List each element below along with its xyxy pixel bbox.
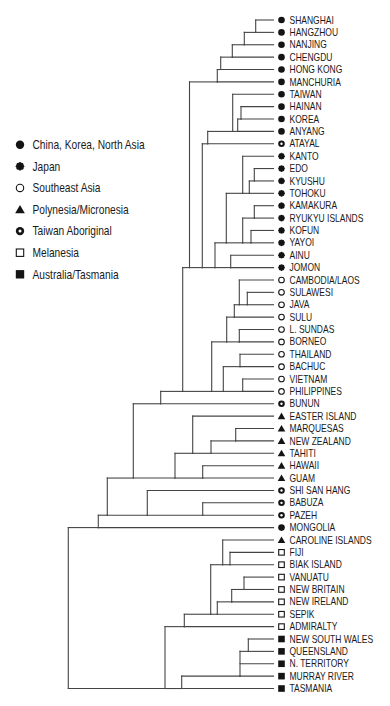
legend-label: Japan	[33, 160, 61, 173]
leaf-babuza: BABUZA	[278, 498, 324, 509]
legend-label: Taiwan Aboriginal	[33, 225, 112, 238]
hollow-square-icon	[279, 587, 285, 593]
leaf-label: SHI SAN HANG	[290, 485, 351, 496]
flower-icon	[278, 178, 285, 185]
leaf-tasmania: TASMANIA	[278, 683, 333, 694]
leaf-label: VANUATU	[290, 572, 329, 583]
leaf-label: CAROLINE ISLANDS	[290, 535, 372, 546]
dotted-circle-icon	[278, 500, 285, 507]
flower-icon	[278, 239, 285, 246]
leaf-label: NEW BRITAIN	[290, 584, 345, 595]
leaf-new-britain: NEW BRITAIN	[279, 584, 345, 595]
filled-circle-icon	[278, 17, 285, 24]
dotted-circle-icon	[16, 227, 24, 235]
dendrogram-canvas: China, Korea, North AsiaJapanSoutheast A…	[0, 0, 390, 706]
leaf-label: BACHUC	[290, 362, 326, 373]
legend-item-aus: Australia/Tasmania	[16, 268, 120, 281]
leaf-sepik: SEPIK	[279, 609, 316, 620]
filled-circle-icon	[278, 524, 285, 531]
leaf-guam: GUAM	[278, 473, 315, 484]
leaf-label: HANGZHOU	[290, 27, 339, 38]
legend-item-sea: Southeast Asia	[16, 181, 101, 194]
leaf-label: MANCHURIA	[290, 77, 342, 88]
leaf-new-zealand: NEW ZEALAND	[278, 436, 351, 447]
hollow-circle-icon	[279, 339, 285, 345]
filled-circle-icon	[278, 66, 285, 73]
leaf-label: PHILIPPINES	[290, 386, 342, 397]
filled-circle-icon	[16, 141, 24, 149]
leaf-pazeh: PAZEH	[278, 510, 317, 521]
hollow-circle-icon	[279, 364, 285, 370]
filled-triangle-icon	[278, 474, 286, 481]
legend-label: Southeast Asia	[33, 181, 102, 194]
flower-icon	[278, 252, 285, 259]
filled-triangle-icon	[278, 536, 286, 543]
leaf-label: JAVA	[290, 300, 311, 311]
leaf-label: KOFUN	[290, 225, 320, 236]
filled-square-icon	[278, 648, 285, 655]
leaf-marquesas: MARQUESAS	[278, 424, 344, 435]
leaf-anyang: ANYANG	[278, 126, 325, 137]
dotted-circle-icon	[278, 512, 285, 519]
dendrogram-leaves: SHANGHAIHANGZHOUNANJINGCHENGDUHONG KONGM…	[278, 15, 373, 694]
filled-square-icon	[278, 636, 285, 643]
flower-icon	[278, 227, 285, 234]
leaf-label: BIAK ISLAND	[290, 560, 343, 571]
leaf-label: HAWAII	[290, 461, 320, 472]
hollow-circle-icon	[279, 351, 285, 357]
leaf-tahiti: TAHITI	[278, 448, 316, 459]
leaf-shi-san-hang: SHI SAN HANG	[278, 485, 350, 496]
hollow-square-icon	[279, 550, 285, 556]
leaf-label: JOMON	[290, 263, 321, 274]
dendrogram-branches	[68, 20, 273, 689]
leaf-korea: KOREA	[278, 114, 320, 125]
flower-icon	[278, 153, 285, 160]
leaf-label: BUNUN	[290, 399, 320, 410]
leaf-label: KYUSHU	[290, 176, 325, 187]
leaf-label: SULAWESI	[290, 287, 334, 298]
leaf-sulu: SULU	[279, 312, 312, 323]
hollow-circle-icon	[279, 277, 285, 283]
leaf-label: MONGOLIA	[290, 523, 336, 534]
leaf-label: AINU	[290, 250, 310, 261]
leaf-jomon: JOMON	[278, 263, 320, 274]
leaf-label: NEW SOUTH WALES	[290, 634, 374, 645]
leaf-label: TOHOKU	[290, 188, 326, 199]
filled-circle-icon	[278, 128, 285, 135]
legend-item-taiwan: Taiwan Aboriginal	[16, 225, 112, 238]
leaf-label: EDO	[290, 164, 308, 175]
leaf-admiralty: ADMIRALTY	[279, 622, 338, 633]
leaf-hainan: HAINAN	[278, 102, 321, 113]
filled-circle-icon	[278, 41, 285, 48]
leaf-label: HAINAN	[290, 102, 322, 113]
legend-item-japan: Japan	[16, 160, 61, 173]
filled-triangle-icon	[15, 205, 25, 213]
leaf-label: PAZEH	[290, 510, 318, 521]
leaf-bunun: BUNUN	[278, 399, 319, 410]
leaf-yayoi: YAYOI	[278, 238, 314, 249]
filled-triangle-icon	[278, 462, 286, 469]
leaf-label: CHENGDU	[290, 52, 333, 63]
leaf-label: ATAYAL	[290, 139, 320, 150]
filled-square-icon	[278, 673, 285, 680]
hollow-square-icon	[279, 562, 285, 568]
hollow-circle-icon	[279, 327, 285, 333]
flower-icon	[278, 165, 285, 172]
filled-square-icon	[16, 270, 24, 278]
hollow-square-icon	[279, 624, 285, 630]
leaf-label: TASMANIA	[290, 683, 334, 694]
leaf-caroline-islands: CAROLINE ISLANDS	[278, 535, 372, 546]
legend-label: China, Korea, North Asia	[33, 138, 146, 151]
filled-square-icon	[278, 660, 285, 667]
leaf-bachuc: BACHUC	[279, 362, 326, 373]
leaf-label: BABUZA	[290, 498, 325, 509]
leaf-label: HONG KONG	[290, 64, 343, 75]
leaf-kofun: KOFUN	[278, 225, 319, 236]
dotted-circle-icon	[278, 400, 285, 407]
hollow-circle-icon	[279, 376, 285, 382]
leaf-label: NANJING	[290, 40, 327, 51]
dendrogram-figure: China, Korea, North AsiaJapanSoutheast A…	[0, 0, 390, 706]
hollow-square-icon	[279, 599, 285, 605]
filled-circle-icon	[278, 116, 285, 123]
leaf-l-sundas: L. SUNDAS	[279, 324, 335, 335]
